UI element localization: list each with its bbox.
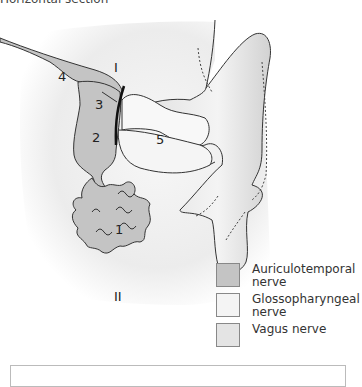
label-region-1-gland: 1 bbox=[115, 223, 123, 236]
legend-item-glossopharyngeal: Glossopharyngeal nerve bbox=[216, 293, 362, 317]
label-region-5: 5 bbox=[156, 133, 164, 146]
legend-item-auriculotemporal: Auriculotemporal nerve bbox=[216, 263, 362, 287]
label-region-1: I bbox=[114, 61, 118, 74]
caption-box bbox=[10, 365, 346, 387]
legend-item-vagus: Vagus nerve bbox=[216, 323, 362, 347]
swatch-auriculotemporal bbox=[216, 263, 240, 287]
swatch-glossopharyngeal bbox=[216, 293, 240, 317]
legend-label: Auriculotemporal nerve bbox=[252, 263, 362, 289]
label-region-2: 2 bbox=[92, 131, 100, 144]
label-region-4: 4 bbox=[58, 70, 66, 83]
legend-label: Vagus nerve bbox=[252, 323, 362, 336]
label-region-3: 3 bbox=[95, 98, 103, 111]
label-region-II: II bbox=[114, 290, 122, 303]
legend: Auriculotemporal nerve Glossopharyngeal … bbox=[216, 263, 362, 353]
legend-label: Glossopharyngeal nerve bbox=[252, 293, 362, 319]
swatch-vagus bbox=[216, 323, 240, 347]
